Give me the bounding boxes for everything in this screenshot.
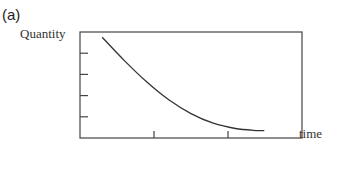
data-curve xyxy=(102,37,264,130)
y-ticks xyxy=(80,53,88,117)
chart-plot xyxy=(0,0,338,176)
plot-frame xyxy=(80,32,302,138)
x-ticks xyxy=(154,131,228,138)
